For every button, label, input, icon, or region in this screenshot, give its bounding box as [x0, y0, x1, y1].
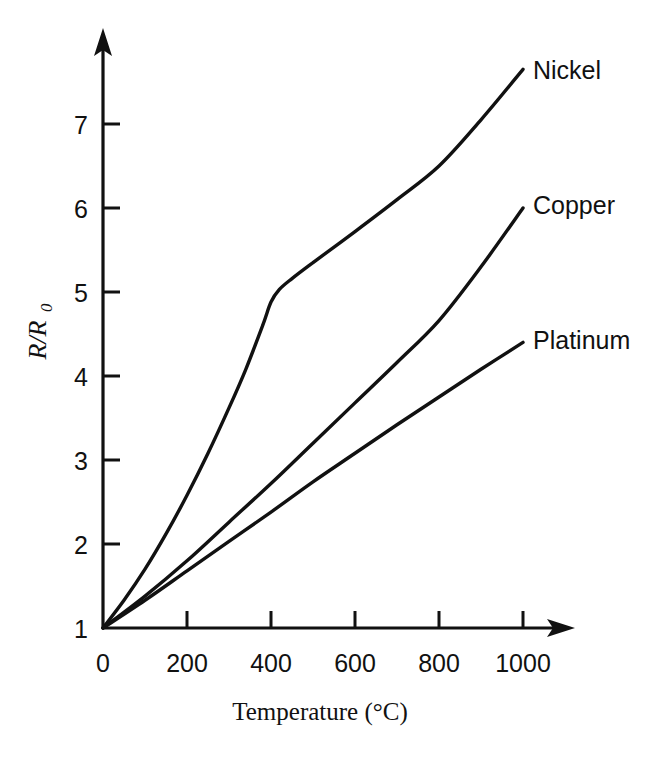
y-tick-label-6: 6: [74, 195, 88, 223]
curve-platinum: [103, 342, 523, 628]
x-tick-label-400: 400: [250, 649, 292, 677]
y-tick-label-5: 5: [74, 279, 88, 307]
x-tick-label-600: 600: [334, 649, 376, 677]
curve-nickel: [103, 69, 523, 628]
x-axis-title: Temperature (°C): [232, 698, 408, 726]
series-labels: Nickel Copper Platinum: [533, 56, 630, 354]
line-chart: 7 6 5 4 3 2 1 0 200 400 600 800 1000: [0, 0, 647, 757]
series-label-copper: Copper: [533, 191, 615, 219]
x-axis-ticks: [187, 611, 523, 628]
x-tick-label-200: 200: [166, 649, 208, 677]
chart-figure: 7 6 5 4 3 2 1 0 200 400 600 800 1000: [0, 0, 647, 757]
x-axis-tick-labels: 0 200 400 600 800 1000: [96, 649, 551, 677]
y-tick-label-3: 3: [74, 447, 88, 475]
y-tick-label-7: 7: [74, 111, 88, 139]
y-axis-ticks: [103, 124, 120, 544]
x-tick-label-1000: 1000: [495, 649, 551, 677]
data-curves: [103, 69, 523, 628]
y-tick-label-1: 1: [74, 615, 88, 643]
y-tick-label-4: 4: [74, 363, 88, 391]
y-axis-title-subscript: 0: [37, 303, 56, 312]
y-axis-title-group: R/R 0: [23, 303, 56, 361]
axes-group: [94, 28, 575, 637]
series-label-platinum: Platinum: [533, 326, 630, 354]
y-axis-tick-labels: 7 6 5 4 3 2 1: [74, 111, 88, 643]
y-axis-title: R/R: [23, 320, 52, 360]
y-tick-label-2: 2: [74, 531, 88, 559]
x-tick-label-0: 0: [96, 649, 110, 677]
curve-copper: [103, 208, 523, 628]
series-label-nickel: Nickel: [533, 56, 601, 84]
x-tick-label-800: 800: [418, 649, 460, 677]
